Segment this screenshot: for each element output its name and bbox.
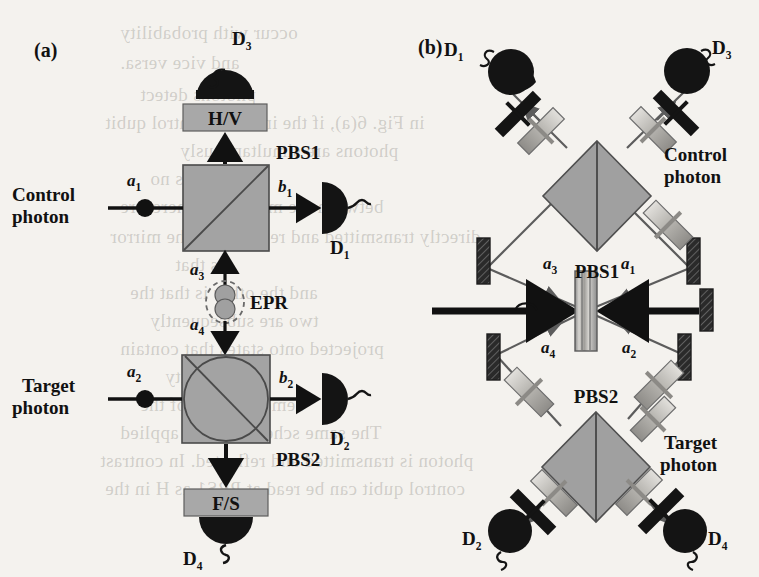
component-pbs1-a-label: PBS1 [276,142,320,163]
input-control-photon-a: Control photon a1 [12,171,183,227]
panel-b-label: (b) [418,36,442,59]
detector-d2-a-label: D2 [330,428,350,452]
detector-d2-a[interactable]: D2 [322,373,371,452]
pump-beam [432,303,699,311]
analyzer-hv[interactable]: H/V [183,104,267,131]
mirror-upper-right [687,238,700,284]
mode-label-a2: a2 [127,362,142,384]
component-pbs1-b[interactable]: PBS1 [543,141,651,282]
component-epr-label: EPR [250,292,288,313]
detector-d2-b-label: D2 [462,528,482,552]
component-pbs2-a-label: PBS2 [276,449,320,470]
source-dot-target [136,390,154,408]
input-target-b-line2: photon [660,454,717,475]
mode-label-b-a4: a4 [541,338,556,360]
mode-label-b1: b1 [278,177,293,199]
input-target-line2: photon [12,397,69,418]
detector-d4-a-label: D4 [183,548,203,572]
component-pbs2-b-label: PBS2 [574,386,618,407]
detector-d4-b[interactable]: D4 [663,509,728,570]
mode-label-b-a2: a2 [622,338,637,360]
component-pbs1-a[interactable]: PBS1 [183,142,320,251]
mode-label-a1: a1 [127,171,142,193]
input-control-b-line1: Control [664,144,727,165]
analyzer-fs-label: F/S [212,493,239,514]
detector-d1-b[interactable]: D1 [444,39,536,95]
detector-d3-b[interactable]: D3 [664,37,732,94]
input-target-line1: Target [22,375,76,396]
output-b1-a: b1 [269,177,318,208]
mirror-upper-left [477,238,490,284]
detector-d1-b-label: D1 [444,39,464,63]
optical-setup-figure: (a) D3 H/V PBS1 Control photon a1 [0,0,759,577]
mode-label-b2: b2 [279,368,294,390]
mode-label-a4: a4 [190,315,205,337]
detector-d1-a-label: D1 [330,237,350,261]
detector-d1-a[interactable]: D1 [322,182,371,261]
mode-label-b-a3: a3 [543,254,558,276]
input-target-photon-a: Target photon a2 [12,362,182,418]
beam-a4: a4 [190,315,225,352]
output-b2-a: b2 [270,368,318,399]
component-pbs2-a[interactable]: PBS2 [182,355,320,470]
input-control-b-line2: photon [664,166,721,187]
input-target-b-line1: Target [664,432,718,453]
panel-b: (b) [418,36,732,570]
input-control-line2: photon [12,206,69,227]
detector-d3-b-label: D3 [712,37,732,61]
beam-a3: a3 [190,253,225,285]
detector-d2-b[interactable]: D2 [462,509,532,570]
component-pbs1-b-label: PBS1 [575,261,619,282]
input-control-line1: Control [12,184,75,205]
panel-a: (a) D3 H/V PBS1 Control photon a1 [12,28,371,572]
source-dot-control [136,199,154,217]
mode-label-a3: a3 [190,260,205,282]
detector-d4-b-label: D4 [708,528,728,552]
component-crystal[interactable] [575,271,597,351]
mode-label-b-a1: a1 [621,254,636,276]
component-epr[interactable]: EPR [206,281,288,323]
detector-d3[interactable]: D3 [196,28,254,99]
panel-a-label: (a) [34,39,57,62]
mirror-pump-right [700,289,713,331]
detector-d4-a[interactable]: D4 [183,517,253,572]
detector-d3-label: D3 [232,28,252,52]
mirror-lower-left [487,334,500,380]
analyzer-fs[interactable]: F/S [184,489,268,516]
analyzer-hv-label: H/V [208,108,242,129]
